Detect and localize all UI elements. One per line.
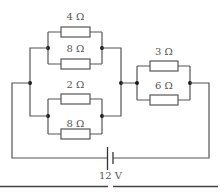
label-4ohm: 4 Ω [67, 11, 85, 22]
wire-outer-right [113, 83, 209, 158]
wire-outer-left [12, 83, 107, 158]
resistor-3ohm [150, 61, 178, 71]
resistor-2ohm [61, 94, 90, 104]
junction-node [135, 81, 139, 85]
label-2ohm: 2 Ω [67, 79, 85, 90]
label-6ohm: 6 Ω [155, 80, 173, 91]
label-8ohm-upper: 8 Ω [67, 43, 85, 54]
resistor-4ohm [61, 27, 90, 37]
circuit-diagram: 4 Ω 8 Ω 2 Ω 8 Ω 3 Ω 6 Ω 12 V [0, 0, 220, 192]
resistor-8ohm-lower [61, 129, 90, 139]
battery-icon [108, 147, 114, 170]
label-8ohm-lower: 8 Ω [67, 118, 85, 129]
battery-voltage-label: 12 V [99, 170, 123, 181]
resistor-6ohm [150, 95, 178, 105]
label-3ohm: 3 Ω [155, 46, 173, 57]
parallel-group-a: 4 Ω 8 Ω [46, 11, 104, 69]
wire-right-bus [102, 48, 121, 116]
parallel-group-b: 2 Ω 8 Ω [46, 79, 104, 139]
resistor-8ohm-upper [61, 59, 90, 69]
wire-left-bus [30, 48, 48, 116]
parallel-group-c: 3 Ω 6 Ω [121, 46, 192, 105]
